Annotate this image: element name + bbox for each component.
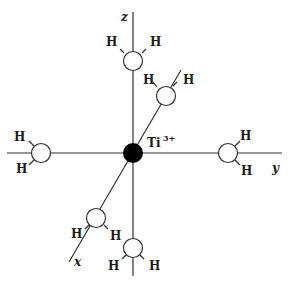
h-label: H: [143, 73, 154, 87]
oxygen-atom: [87, 209, 106, 228]
ligand-front: [85, 209, 108, 230]
h-label: H: [150, 35, 161, 49]
h-label: H: [16, 162, 27, 176]
ligand-bottom: [122, 239, 144, 260]
h-label: H: [108, 259, 119, 273]
h-label: H: [149, 259, 160, 273]
h-label: H: [110, 229, 121, 243]
octahedral-complex-diagram: z y x H H H H H H H H H H: [0, 0, 290, 286]
ion-symbol: Ti: [147, 136, 161, 150]
h-label: H: [240, 129, 251, 143]
x-axis-label: x: [73, 255, 82, 269]
h-label: H: [183, 73, 194, 87]
titanium-ion: [123, 143, 143, 163]
ion-charge: 3+: [163, 133, 175, 143]
ligand-left: [29, 141, 51, 165]
oxygen-atom: [219, 144, 238, 163]
h-label: H: [106, 35, 117, 49]
oxygen-atom: [157, 87, 176, 106]
oxygen-atom: [124, 52, 143, 71]
oxygen-atom: [124, 239, 143, 258]
y-axis-label: y: [271, 161, 280, 175]
ligand-right: [219, 141, 241, 165]
z-axis-label: z: [120, 10, 129, 24]
ligand-top: [120, 49, 146, 71]
oxygen-atom: [32, 144, 51, 163]
axes: [7, 12, 282, 276]
h-label: H: [71, 227, 82, 241]
ligand-back: [153, 82, 177, 106]
h-label: H: [241, 164, 252, 178]
h-label: H: [14, 130, 25, 144]
